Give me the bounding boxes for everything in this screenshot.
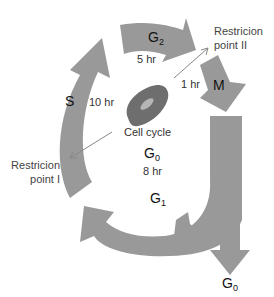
s-phase-label: S: [65, 94, 74, 108]
center-g0-label: G0: [144, 146, 160, 163]
restriction-point-2-label: Restricionpoint II: [214, 24, 263, 52]
g1-duration: 8 hr: [143, 166, 162, 177]
s-duration: 10 hr: [89, 97, 114, 108]
cell-cycle-label: Cell cycle: [124, 127, 171, 138]
cell-icon: [127, 85, 169, 126]
exit-g0-label: G0: [222, 276, 238, 293]
m-phase-label: M: [213, 78, 225, 92]
g2-duration: 5 hr: [137, 54, 156, 65]
g1-phase-label: G1: [150, 191, 166, 208]
m-duration: 1 hr: [181, 79, 200, 90]
restriction-point-1-label: Restricionpoint I: [11, 158, 60, 186]
g2-phase-label: G2: [148, 30, 164, 47]
s-phase-arrow: [60, 38, 110, 198]
